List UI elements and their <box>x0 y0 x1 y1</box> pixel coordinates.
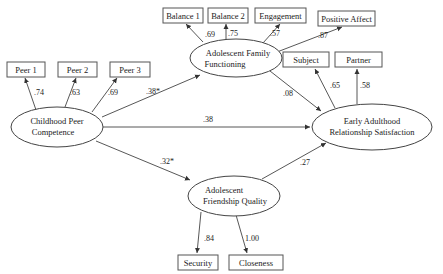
svg-text:Subject: Subject <box>293 55 319 65</box>
svg-text:Balance 2: Balance 2 <box>211 11 245 21</box>
indicator-peer-1: Peer 1 <box>7 62 45 77</box>
indicator-positive-affect: Positive Affect <box>318 11 375 26</box>
svg-text:Security: Security <box>184 258 213 268</box>
svg-text:.87: .87 <box>318 31 328 40</box>
svg-text:.38*: .38* <box>146 87 160 96</box>
svg-text:Peer 1: Peer 1 <box>15 65 36 75</box>
svg-text:.57: .57 <box>270 29 280 38</box>
path-diagram: Peer 1 Peer 2 Peer 3 Balance 1 Balance 2… <box>0 0 443 274</box>
svg-text:Closeness: Closeness <box>239 258 273 268</box>
svg-text:.84: .84 <box>204 234 214 243</box>
latent-childhood-peer-competence: Childhood Peer Competence <box>11 107 103 147</box>
svg-text:1.00: 1.00 <box>245 234 259 243</box>
indicator-closeness: Closeness <box>229 255 283 270</box>
svg-text:.27: .27 <box>300 158 310 167</box>
indicator-subject: Subject <box>283 52 329 67</box>
svg-text:.75: .75 <box>228 29 238 38</box>
svg-text:Partner: Partner <box>346 55 371 65</box>
svg-text:.74: .74 <box>34 88 44 97</box>
indicator-peer-2: Peer 2 <box>58 62 97 77</box>
svg-text:Friendship Quality: Friendship Quality <box>203 196 268 206</box>
svg-text:Balance 1: Balance 1 <box>166 11 200 21</box>
svg-text:Positive Affect: Positive Affect <box>321 14 372 24</box>
svg-text:Competence: Competence <box>32 127 75 137</box>
svg-text:.69: .69 <box>108 88 118 97</box>
svg-text:Relationship Satisfaction: Relationship Satisfaction <box>329 127 415 137</box>
indicator-peer-3: Peer 3 <box>110 62 150 77</box>
svg-text:Childhood Peer: Childhood Peer <box>30 116 83 126</box>
svg-text:.65: .65 <box>330 81 340 90</box>
svg-text:Adolescent: Adolescent <box>205 185 244 195</box>
indicator-balance-2: Balance 2 <box>208 8 248 23</box>
svg-text:.08: .08 <box>283 89 293 98</box>
svg-text:Functioning: Functioning <box>204 59 246 69</box>
svg-text:.69: .69 <box>205 30 215 39</box>
svg-text:.32*: .32* <box>160 157 174 166</box>
svg-text:.58: .58 <box>360 81 370 90</box>
svg-text:Peer 3: Peer 3 <box>119 65 140 75</box>
indicator-partner: Partner <box>335 52 382 67</box>
svg-text:Early Adulthood: Early Adulthood <box>344 116 401 126</box>
latent-adolescent-friendship-quality: Adolescent Friendship Quality <box>188 176 280 216</box>
svg-text:Engagement: Engagement <box>259 11 302 21</box>
indicator-balance-1: Balance 1 <box>163 8 203 23</box>
svg-text:Peer 2: Peer 2 <box>67 65 88 75</box>
svg-text:.38: .38 <box>203 115 213 124</box>
indicator-security: Security <box>178 255 218 270</box>
indicator-engagement: Engagement <box>255 8 306 23</box>
svg-text:Adolescent Family: Adolescent Family <box>206 48 271 58</box>
latent-adolescent-family-functioning: Adolescent Family Functioning <box>190 39 282 77</box>
latent-early-adulthood-relationship-satisfaction: Early Adulthood Relationship Satisfactio… <box>312 104 432 150</box>
svg-text:.63: .63 <box>70 88 80 97</box>
